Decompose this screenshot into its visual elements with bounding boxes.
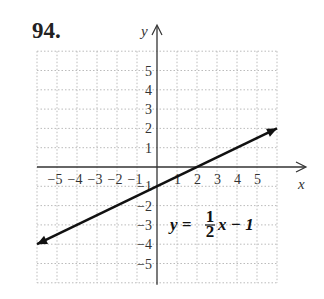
x-tick-label: −2 xyxy=(108,172,123,187)
x-tick-label: 3 xyxy=(214,172,221,187)
y-tick-label: 1 xyxy=(145,141,152,156)
x-tick-label: −3 xyxy=(88,172,103,187)
y-tick-label: 2 xyxy=(145,121,152,136)
x-tick-label: −4 xyxy=(68,172,83,187)
coordinate-plane: xy −5−4−3−2−11234554321−1−2−3−4−5 y =12x… xyxy=(0,0,324,299)
equation-lhs: y = xyxy=(168,215,191,234)
equation-label: y =12x − 1 xyxy=(168,207,254,241)
x-tick-label: 5 xyxy=(254,172,261,187)
x-tick-label: 4 xyxy=(234,172,241,187)
fraction-denominator: 2 xyxy=(206,222,215,241)
equation-rhs: x − 1 xyxy=(217,215,254,234)
x-axis-label: x xyxy=(297,176,305,192)
y-tick-label: 5 xyxy=(145,64,152,79)
y-tick-label: 4 xyxy=(145,83,152,98)
x-tick-label: −5 xyxy=(48,172,63,187)
y-tick-label: −2 xyxy=(137,199,152,214)
y-tick-label: −4 xyxy=(137,237,152,252)
x-tick-label: 2 xyxy=(194,172,201,187)
y-tick-label: −5 xyxy=(137,257,152,272)
y-tick-label: 3 xyxy=(145,102,152,117)
y-axis-label: y xyxy=(139,23,148,39)
y-tick-label: −3 xyxy=(137,218,152,233)
